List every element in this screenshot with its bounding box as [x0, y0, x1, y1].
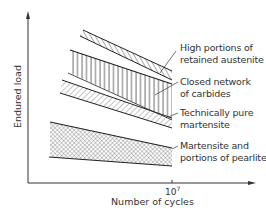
label-line: retained austenite: [180, 54, 264, 66]
label-line: portions of pearlite: [180, 152, 266, 164]
y-axis-label: Endured load: [12, 65, 23, 128]
label-pure-martensite: Technically pure martensite: [180, 107, 253, 130]
label-line: High portions of: [180, 42, 264, 54]
label-carbides: Closed network of carbides: [180, 76, 251, 99]
band-martensite-pearlite: [49, 122, 178, 166]
tick-base: 10: [165, 187, 176, 197]
x-tick-label: 107: [165, 185, 180, 197]
y-axis-arrow-icon: [26, 11, 30, 19]
leader-martensite-pearlite: [172, 146, 178, 149]
label-martensite-pearlite: Martensite and portions of pearlite: [180, 140, 266, 163]
x-axis-arrow-icon: [248, 181, 256, 185]
label-line: Martensite and: [180, 140, 266, 152]
label-line: Technically pure: [180, 107, 253, 119]
label-line: martensite: [180, 119, 253, 131]
x-axis-label: Number of cycles: [111, 196, 194, 207]
label-retained-austenite: High portions of retained austenite: [180, 42, 264, 65]
label-line: Closed network: [180, 76, 251, 88]
tick-exponent: 7: [176, 185, 180, 192]
label-line: of carbides: [180, 88, 251, 100]
